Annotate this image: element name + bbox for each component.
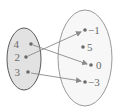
mapping-diagram: 4 2 3 −1 5 0 −3 <box>0 0 117 108</box>
domain-dot-2 <box>24 55 28 59</box>
codomain-set-ellipse <box>58 10 112 106</box>
domain-label-3: 3 <box>15 66 21 78</box>
domain-label-4: 4 <box>14 38 20 50</box>
domain-set-ellipse <box>7 28 41 90</box>
codomain-label-neg1: −1 <box>88 24 100 36</box>
codomain-dot-neg3 <box>83 80 87 84</box>
codomain-label-5: 5 <box>87 41 93 53</box>
codomain-label-0: 0 <box>96 59 102 71</box>
domain-dot-3 <box>26 70 30 74</box>
codomain-label-neg3: −3 <box>88 76 100 88</box>
codomain-dot-neg1 <box>83 28 87 32</box>
codomain-dot-0 <box>89 63 93 67</box>
domain-dot-4 <box>29 42 33 46</box>
domain-label-2: 2 <box>15 51 21 63</box>
codomain-dot-5 <box>81 45 85 49</box>
